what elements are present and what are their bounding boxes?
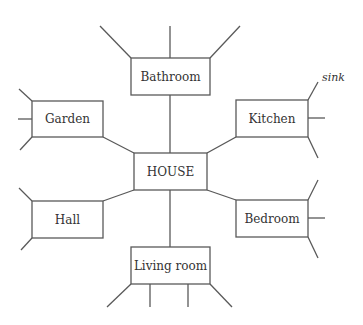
annotation-sink: sink xyxy=(322,71,345,84)
branch-sink xyxy=(308,82,318,100)
living-room-branches xyxy=(107,284,232,307)
node-label: Bathroom xyxy=(140,70,201,84)
node-label: Kitchen xyxy=(249,112,296,126)
node-living-room: Living room xyxy=(131,247,210,284)
node-label: Bedroom xyxy=(244,212,300,226)
connector-hall xyxy=(103,190,134,201)
node-garden: Garden xyxy=(32,101,103,137)
node-label: Hall xyxy=(55,213,80,227)
node-label: Living room xyxy=(134,259,208,273)
node-bathroom: Bathroom xyxy=(131,58,210,95)
kitchen-branches xyxy=(308,82,325,158)
spider-diagram: Bathroom Garden Kitchen HOUSE Hall Bedro… xyxy=(0,0,363,325)
node-hall: Hall xyxy=(32,201,103,238)
connector-garden xyxy=(103,137,134,153)
node-bedroom: Bedroom xyxy=(236,200,308,237)
node-kitchen: Kitchen xyxy=(236,100,308,137)
garden-branches xyxy=(18,89,32,150)
connector-bedroom xyxy=(207,190,236,200)
bathroom-branches xyxy=(100,26,240,58)
node-label: Garden xyxy=(45,112,90,126)
hall-branches xyxy=(19,188,32,250)
node-house: HOUSE xyxy=(134,153,207,190)
bedroom-branches xyxy=(308,180,325,258)
connector-kitchen xyxy=(207,137,236,153)
center-label: HOUSE xyxy=(147,165,194,179)
